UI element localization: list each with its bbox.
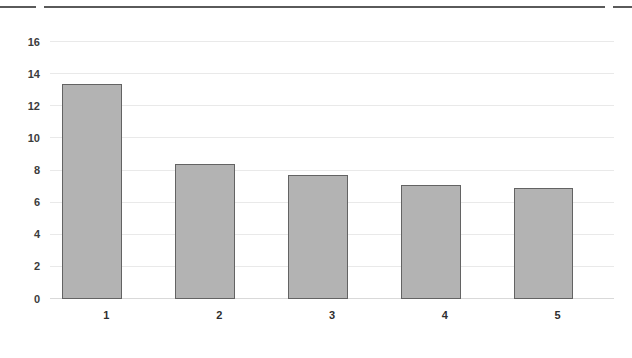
x-axis-tick-label: 4: [388, 310, 501, 321]
bar[interactable]: [175, 164, 235, 299]
bar-slot: 5: [501, 42, 614, 299]
bar-slot: 3: [276, 42, 389, 299]
x-axis-tick-label: 1: [50, 310, 163, 321]
y-axis-tick-label: 4: [34, 229, 40, 240]
bar-slot: 4: [388, 42, 501, 299]
bar[interactable]: [401, 185, 461, 299]
bar[interactable]: [288, 175, 348, 299]
chart-screenshot: 024681012141612345: [0, 0, 632, 358]
y-axis-tick-label: 2: [34, 261, 40, 272]
bar-chart: 024681012141612345: [0, 0, 632, 358]
bar-slot: 2: [163, 42, 276, 299]
bar-series: 12345: [50, 42, 614, 299]
x-axis-tick-label: 5: [501, 310, 614, 321]
x-axis-tick-label: 3: [276, 310, 389, 321]
bar[interactable]: [62, 84, 122, 299]
y-axis-tick-label: 8: [34, 165, 40, 176]
bar[interactable]: [514, 188, 574, 299]
plot-area: 024681012141612345: [50, 42, 614, 299]
y-axis-tick-label: 14: [28, 68, 40, 79]
y-axis-tick-label: 6: [34, 197, 40, 208]
x-axis-tick-label: 2: [163, 310, 276, 321]
y-axis-tick-label: 10: [28, 132, 40, 143]
y-axis-tick-label: 16: [28, 36, 40, 47]
y-axis-tick-label: 0: [34, 293, 40, 304]
bar-slot: 1: [50, 42, 163, 299]
y-axis-tick-label: 12: [28, 100, 40, 111]
